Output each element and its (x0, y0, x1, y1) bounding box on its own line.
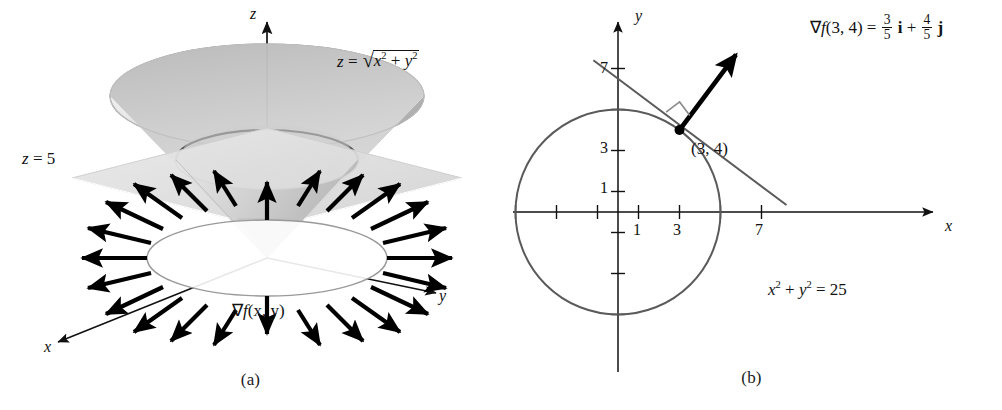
axis-label-x-b: x (945, 218, 952, 234)
y-tick-label-7: 7 (600, 60, 608, 76)
y-tick-label-3: 3 (600, 140, 608, 156)
panel-a-graphic (0, 0, 501, 410)
level-circle-xy-plane (147, 220, 387, 296)
caption-panel-b: (b) (501, 368, 1002, 388)
x-tick-label-3: 3 (673, 222, 681, 238)
circle-equation-label: x2 + y2 = 25 (768, 280, 847, 298)
y-tick-label-1: 1 (600, 180, 608, 196)
panel-b-level-curve-gradient: ∇f(3, 4) = 35 i + 45 j x2 + y2 = 25 (3, … (501, 0, 1002, 410)
x-tick-label-7: 7 (755, 222, 763, 238)
right-angle-marker (666, 102, 690, 116)
plane-equation-label: z = 5 (22, 150, 55, 167)
panel-a-cone-gradient-field: z = √x2 + y2 z = 5 ∇f(x, y) z y x (a) (0, 0, 501, 410)
gradient-formula-label: ∇f(3, 4) = 35 i + 45 j (810, 13, 943, 42)
figure-root: z = √x2 + y2 z = 5 ∇f(x, y) z y x (a) (0, 0, 1002, 410)
axis-label-x: x (44, 339, 51, 355)
axis-label-z: z (250, 6, 256, 22)
tangent-line (593, 60, 786, 205)
caption-panel-a: (a) (0, 370, 501, 390)
panel-b-graphic (501, 0, 1002, 410)
gradient-vector (675, 55, 737, 135)
surface-equation-label: z = √x2 + y2 (337, 50, 419, 70)
x-tick-label-1: 1 (633, 222, 641, 238)
axis-label-y: y (439, 288, 446, 304)
tangent-point-label: (3, 4) (691, 140, 728, 157)
gradient-field-label: ∇f(x, y) (232, 302, 285, 319)
axis-label-y-b: y (635, 8, 642, 24)
